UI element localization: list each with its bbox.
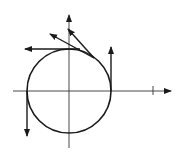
- circle-tangent-diagram: [0, 0, 187, 160]
- tangent-vector-upper-right-1: [50, 34, 94, 58]
- tangent-vector-upper-right-2: [68, 29, 94, 58]
